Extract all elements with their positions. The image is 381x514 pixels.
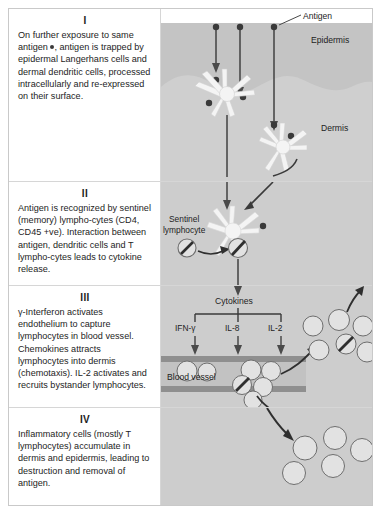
label-sentinel-line1: Sentinel (169, 214, 199, 224)
panel-4-artwork (161, 408, 372, 505)
label-cytokine-il2: IL-2 (268, 323, 282, 333)
presented-antigen-dot (260, 223, 266, 229)
panel-4-body: Inflammatory cells (mostly T lymphocytes… (18, 428, 152, 489)
panel-4-svg (161, 408, 372, 505)
panel-stage-1: I On further exposure to same antigen , … (9, 9, 372, 182)
panel-3-text-column: III γ-Interferon activates endothelium t… (9, 286, 161, 407)
label-dermis: Dermis (321, 123, 348, 133)
panel-stage-2: II Antigen is recognized by sentinel (me… (9, 182, 372, 286)
label-blood-vessel: Blood vessel (167, 372, 216, 382)
label-epidermis: Epidermis (311, 35, 349, 45)
panel-stage-3: III γ-Interferon activates endothelium t… (9, 286, 372, 408)
label-cytokines: Cytokines (215, 296, 253, 306)
sentinel-lymphocyte-engaged (229, 239, 248, 258)
panel-3-body: γ-Interferon activates endothelium to ca… (18, 306, 152, 391)
panel-2-text-column: II Antigen is recognized by sentinel (me… (9, 182, 161, 285)
panel-2-artwork: Sentinel lymphocyte (161, 182, 372, 285)
panel-1-artwork: Antigen Epidermis Dermis (161, 9, 372, 181)
panel-4-bg (161, 408, 372, 505)
panel-2-numeral: II (18, 188, 152, 199)
panel-1-numeral: I (18, 15, 152, 26)
label-cytokine-ifn-gamma: IFN-γ (175, 323, 195, 333)
figure-container: I On further exposure to same antigen , … (8, 8, 373, 506)
panel-3-svg (161, 286, 372, 407)
panel-4-numeral: IV (18, 414, 152, 425)
sentinel-lymphocyte-free (178, 239, 196, 257)
panel-1-text-column: I On further exposure to same antigen , … (9, 9, 161, 181)
panel-3-numeral: III (18, 292, 152, 303)
label-sentinel-line2: lymphocyte (163, 225, 205, 235)
vessel-wall-top (161, 356, 306, 362)
label-cytokine-il8: IL-8 (225, 323, 239, 333)
panel-2-body: Antigen is recognized by sentinel (memor… (18, 202, 152, 275)
panel-3-artwork: Cytokines IFN-γ IL-8 IL-2 Blood vessel (161, 286, 372, 407)
label-antigen: Antigen (303, 11, 332, 21)
panel-stage-4: IV Inflammatory cells (mostly T lymphocy… (9, 408, 372, 505)
panel-1-body: On further exposure to same antigen , an… (18, 29, 152, 102)
panel-4-text-column: IV Inflammatory cells (mostly T lymphocy… (9, 408, 161, 505)
